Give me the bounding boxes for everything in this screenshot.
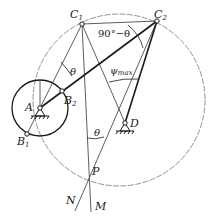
- label-90-minus-theta: 90°−θ: [98, 28, 130, 39]
- label-p: P: [91, 165, 100, 178]
- label-theta-bottom: θ: [94, 127, 100, 138]
- four-bar-linkage-diagram: A B1 B2 C1 C2 D P N M θ 90°−θ ψmax θ: [0, 0, 218, 222]
- label-m: M: [94, 200, 107, 213]
- label-c1: C1: [70, 8, 83, 22]
- label-b2: B2: [63, 94, 77, 108]
- label-c2: C2: [154, 8, 167, 22]
- label-d: D: [129, 117, 139, 130]
- joint-b1: [25, 132, 29, 136]
- circumcircle: [33, 14, 205, 186]
- joint-b2: [60, 89, 64, 93]
- label-theta-top: θ: [70, 66, 76, 77]
- joint-a: [38, 106, 42, 110]
- label-b1: B1: [16, 135, 30, 149]
- joint-c1: [80, 22, 84, 26]
- label-psi-max: ψmax: [110, 65, 133, 77]
- label-a: A: [24, 101, 33, 114]
- joint-d: [123, 121, 127, 125]
- arc-psi-max: [109, 79, 138, 82]
- line-c2-n: [75, 21, 157, 211]
- label-n: N: [65, 194, 76, 207]
- line-c1-c2: [82, 21, 157, 24]
